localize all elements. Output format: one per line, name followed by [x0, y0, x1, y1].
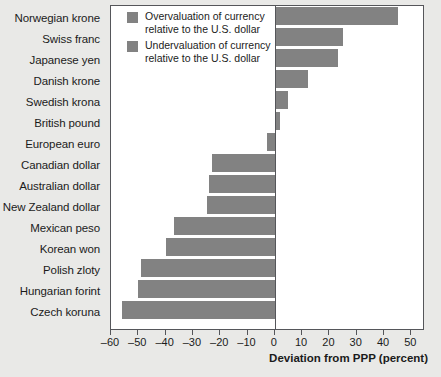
bar	[275, 7, 398, 25]
category-label: European euro	[0, 134, 104, 155]
bar	[207, 196, 275, 214]
bar-row	[111, 153, 423, 174]
legend-swatch-icon	[127, 12, 138, 23]
bar	[166, 238, 275, 256]
bar	[275, 28, 343, 46]
axis-tick-label: –50	[128, 336, 146, 348]
bar-row	[111, 216, 423, 237]
bar-row	[111, 90, 423, 111]
bar	[212, 154, 275, 172]
bar-row	[111, 300, 423, 321]
axis-tick	[328, 330, 329, 335]
category-label: British pound	[0, 113, 104, 134]
legend-item-overvaluation: Overvaluation of currency relative to th…	[127, 10, 279, 35]
category-label: Australian dollar	[0, 176, 104, 197]
axis-tick-label: –30	[183, 336, 201, 348]
category-label: Canadian dollar	[0, 155, 104, 176]
bar	[267, 133, 275, 151]
bar-row	[111, 111, 423, 132]
category-label: Mexican peso	[0, 218, 104, 239]
axis-tick-label: –10	[237, 336, 255, 348]
legend-swatch-icon	[127, 41, 138, 52]
x-axis-title: Deviation from PPP (percent)	[0, 352, 428, 364]
bar	[122, 301, 275, 319]
legend-label-undervaluation: Undervaluation of currency relative to t…	[145, 39, 270, 64]
axis-tick	[247, 330, 248, 335]
bar-row	[111, 237, 423, 258]
bar	[275, 91, 289, 109]
bar	[275, 49, 338, 67]
axis-tick	[165, 330, 166, 335]
bar	[174, 217, 275, 235]
bar	[141, 259, 275, 277]
axis-tick-label: –20	[210, 336, 228, 348]
axis-tick-label: 50	[404, 336, 416, 348]
axis-tick	[137, 330, 138, 335]
category-label: Japanese yen	[0, 50, 104, 71]
bar	[275, 70, 308, 88]
bar	[209, 175, 275, 193]
bar	[138, 280, 275, 298]
axis-tick	[356, 330, 357, 335]
axis-tick	[192, 330, 193, 335]
category-label: Norwegian krone	[0, 8, 104, 29]
axis-tick	[219, 330, 220, 335]
legend-line-2: relative to the U.S. dollar	[145, 52, 260, 64]
bar-row	[111, 132, 423, 153]
category-label: Swiss franc	[0, 29, 104, 50]
axis-tick	[110, 330, 111, 335]
legend-line-1: Undervaluation of currency	[145, 39, 270, 51]
axis-tick-label: 30	[350, 336, 362, 348]
category-label: Danish krone	[0, 71, 104, 92]
x-axis-tick-labels: –60–50–40–30–20–1001020304050	[110, 336, 424, 350]
bar-row	[111, 258, 423, 279]
legend-line-2: relative to the U.S. dollar	[145, 23, 260, 35]
category-label: Korean won	[0, 239, 104, 260]
axis-tick	[410, 330, 411, 335]
axis-tick-label: 20	[322, 336, 334, 348]
chart-legend: Overvaluation of currency relative to th…	[127, 10, 279, 68]
category-axis-labels: Norwegian kroneSwiss francJapanese yenDa…	[0, 8, 104, 323]
category-label: Polish zloty	[0, 260, 104, 281]
category-label: Hungarian forint	[0, 281, 104, 302]
legend-label-overvaluation: Overvaluation of currency relative to th…	[145, 10, 265, 35]
legend-item-undervaluation: Undervaluation of currency relative to t…	[127, 39, 279, 64]
axis-tick	[301, 330, 302, 335]
axis-tick-label: –40	[155, 336, 173, 348]
plot-area: Overvaluation of currency relative to th…	[110, 5, 424, 330]
bar-row	[111, 195, 423, 216]
legend-line-1: Overvaluation of currency	[145, 10, 265, 22]
chart-figure: Norwegian kroneSwiss francJapanese yenDa…	[0, 0, 441, 377]
axis-tick-label: 0	[271, 336, 277, 348]
axis-tick	[383, 330, 384, 335]
axis-tick-label: –60	[101, 336, 119, 348]
axis-tick	[274, 330, 275, 335]
bar-row	[111, 69, 423, 90]
bar-row	[111, 174, 423, 195]
bar-row	[111, 279, 423, 300]
axis-tick-label: 40	[377, 336, 389, 348]
category-label: New Zealand dollar	[0, 197, 104, 218]
category-label: Czech koruna	[0, 302, 104, 323]
category-label: Swedish krona	[0, 92, 104, 113]
axis-tick-label: 10	[295, 336, 307, 348]
